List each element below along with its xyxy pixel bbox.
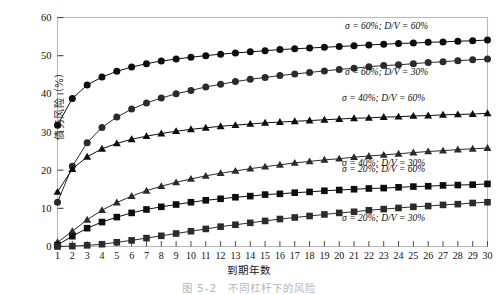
data-point-marker bbox=[291, 70, 298, 77]
data-point-marker bbox=[84, 225, 91, 232]
x-tick-label: 3 bbox=[85, 250, 90, 261]
x-tick-label: 24 bbox=[394, 250, 404, 261]
data-point-marker bbox=[69, 95, 76, 102]
data-point-marker bbox=[83, 216, 91, 223]
data-point-marker bbox=[143, 60, 150, 67]
x-tick-label: 26 bbox=[423, 250, 433, 261]
y-axis-title: 债务风险（%） bbox=[51, 44, 66, 164]
data-point-marker bbox=[484, 109, 492, 116]
series-5 bbox=[54, 199, 491, 250]
y-tick-label: 60 bbox=[41, 12, 52, 23]
data-point-marker bbox=[440, 38, 447, 45]
data-point-marker bbox=[187, 54, 194, 61]
data-point-marker bbox=[469, 200, 476, 207]
data-point-marker bbox=[217, 81, 224, 88]
data-point-marker bbox=[440, 202, 447, 209]
x-tick-label: 27 bbox=[438, 250, 448, 261]
data-point-marker bbox=[262, 191, 269, 198]
data-point-marker bbox=[143, 206, 150, 213]
x-tick-label: 18 bbox=[305, 250, 315, 261]
series-0 bbox=[54, 37, 491, 129]
data-point-marker bbox=[69, 243, 76, 250]
data-point-marker bbox=[306, 213, 313, 220]
x-tick-label: 14 bbox=[245, 250, 255, 261]
data-point-marker bbox=[128, 210, 135, 217]
data-point-marker bbox=[217, 195, 224, 202]
data-point-marker bbox=[84, 82, 91, 89]
data-point-marker bbox=[262, 74, 269, 81]
data-point-marker bbox=[336, 187, 343, 194]
data-point-marker bbox=[128, 237, 135, 244]
data-point-marker bbox=[440, 182, 447, 189]
data-point-marker bbox=[454, 57, 461, 64]
series-line bbox=[58, 202, 488, 246]
data-point-marker bbox=[454, 38, 461, 45]
data-point-marker bbox=[276, 72, 283, 79]
data-point-marker bbox=[232, 78, 239, 85]
data-point-marker bbox=[484, 37, 491, 44]
data-point-marker bbox=[336, 43, 343, 50]
data-point-marker bbox=[276, 46, 283, 53]
data-point-marker bbox=[113, 114, 120, 121]
data-point-marker bbox=[158, 58, 165, 65]
series-legend-label: σ = 20%; D/V = 60% bbox=[342, 163, 425, 174]
figure-caption: 图 5-2 不同杠杆下的风险 bbox=[0, 280, 498, 295]
data-point-marker bbox=[306, 69, 313, 76]
x-axis-title: 到期年数 bbox=[0, 262, 498, 277]
data-point-marker bbox=[98, 74, 105, 81]
data-point-marker bbox=[380, 185, 387, 192]
data-point-marker bbox=[232, 221, 239, 228]
data-point-marker bbox=[54, 199, 61, 206]
data-point-marker bbox=[69, 233, 76, 240]
x-tick-label: 19 bbox=[319, 250, 329, 261]
data-point-marker bbox=[410, 40, 417, 47]
data-point-marker bbox=[425, 183, 432, 190]
data-point-marker bbox=[98, 206, 106, 213]
x-tick-label: 23 bbox=[379, 250, 389, 261]
data-point-marker bbox=[187, 87, 194, 94]
x-tick-label: 11 bbox=[201, 250, 211, 261]
x-tick-label: 8 bbox=[159, 250, 164, 261]
data-point-marker bbox=[232, 49, 239, 56]
x-tick-label: 20 bbox=[334, 250, 344, 261]
data-point-marker bbox=[380, 41, 387, 48]
data-point-marker bbox=[425, 39, 432, 46]
data-point-marker bbox=[113, 68, 120, 75]
x-tick-label: 29 bbox=[468, 250, 478, 261]
data-point-marker bbox=[158, 233, 165, 240]
data-point-marker bbox=[351, 186, 358, 193]
data-point-marker bbox=[173, 90, 180, 97]
data-point-marker bbox=[143, 235, 150, 242]
data-point-marker bbox=[321, 211, 328, 218]
data-point-marker bbox=[410, 183, 417, 190]
x-tick-label: 1 bbox=[55, 250, 60, 261]
data-point-marker bbox=[469, 56, 476, 63]
data-point-marker bbox=[247, 76, 254, 83]
x-tick-label: 28 bbox=[453, 250, 463, 261]
series-legend-label: σ = 20%; D/V = 30% bbox=[342, 212, 425, 223]
data-point-marker bbox=[262, 47, 269, 54]
data-point-marker bbox=[306, 45, 313, 52]
data-point-marker bbox=[128, 64, 135, 71]
data-point-marker bbox=[395, 205, 402, 212]
data-point-marker bbox=[143, 99, 150, 106]
data-point-marker bbox=[98, 124, 105, 131]
data-point-marker bbox=[277, 216, 284, 223]
data-point-marker bbox=[158, 95, 165, 102]
data-point-marker bbox=[469, 181, 476, 188]
series-line bbox=[58, 113, 488, 192]
data-point-marker bbox=[440, 58, 447, 65]
x-tick-label: 13 bbox=[230, 250, 240, 261]
data-point-marker bbox=[484, 199, 491, 206]
series-legend-label: σ = 60%; D/V = 60% bbox=[345, 20, 428, 31]
series-line bbox=[58, 40, 488, 125]
data-point-marker bbox=[114, 239, 121, 246]
data-point-marker bbox=[54, 188, 62, 195]
x-tick-label: 5 bbox=[114, 250, 119, 261]
data-point-marker bbox=[84, 139, 91, 146]
x-tick-label: 2 bbox=[70, 250, 75, 261]
data-point-marker bbox=[291, 45, 298, 52]
data-point-marker bbox=[173, 56, 180, 63]
data-point-marker bbox=[202, 52, 209, 59]
